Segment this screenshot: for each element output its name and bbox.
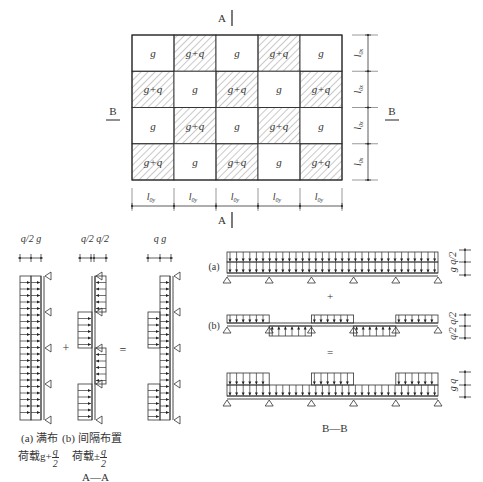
arrow-right-icon: [88, 409, 91, 412]
section-mark-a-top: A: [218, 12, 226, 24]
arrow-right-icon: [166, 398, 169, 401]
dimension-label-c: g q: [447, 379, 458, 392]
arrow-left-icon: [96, 366, 99, 369]
arrow-down-icon: [262, 393, 265, 396]
load-block: [31, 276, 41, 420]
arrow-down-icon: [255, 382, 258, 385]
arrow-down-icon: [361, 259, 364, 262]
arrow-down-icon: [387, 393, 390, 396]
arrow-up-icon: [362, 327, 365, 330]
arrow-down-icon: [420, 270, 423, 273]
dimension-tick-icon: [367, 179, 369, 181]
panel-load-label: g: [234, 120, 240, 132]
slab-panel: g+q: [132, 144, 174, 180]
slab-panel: g: [216, 35, 258, 71]
span-label-l0x: l0x: [352, 85, 364, 94]
load-block: [227, 262, 438, 273]
arrow-down-icon: [248, 382, 251, 385]
arrow-down-icon: [394, 259, 397, 262]
arrow-up-icon: [304, 327, 307, 330]
arrow-down-icon: [407, 259, 410, 262]
load-block: [227, 385, 438, 396]
arrow-right-icon: [27, 340, 30, 343]
arrow-down-icon: [334, 259, 337, 262]
arrow-right-icon: [37, 346, 40, 349]
arrow-left-icon: [96, 281, 99, 284]
diagram-bb-combined-load: g q: [223, 370, 471, 406]
label-a: (a): [208, 261, 219, 273]
panel-load-label: g: [192, 156, 198, 168]
arrow-down-icon: [354, 270, 357, 273]
arrow-up-icon: [382, 327, 385, 330]
arrow-down-icon: [341, 259, 344, 262]
arrow-right-icon: [88, 330, 91, 333]
arrow-down-icon: [320, 320, 323, 323]
panel-load-label: g+q: [312, 156, 331, 168]
arrow-right-icon: [156, 389, 159, 392]
arrow-right-icon: [37, 405, 40, 408]
arrow-down-icon: [347, 393, 350, 396]
arrow-up-icon: [284, 327, 287, 330]
load-block: [78, 384, 92, 420]
load-block: [148, 384, 160, 420]
arrow-down-icon: [295, 393, 298, 396]
scale-label-b: q/2 q/2: [81, 233, 109, 244]
arrow-down-icon: [341, 393, 344, 396]
scale-label-a: q/2 g: [21, 233, 41, 244]
dimension-tick-icon: [105, 257, 107, 259]
dimension-tick-icon: [299, 205, 301, 207]
support-icon: [307, 277, 315, 283]
panel-load-label: g+q: [270, 47, 289, 59]
dimension-tick-icon: [464, 261, 466, 263]
support-icon: [350, 277, 358, 283]
dimension-tick-icon: [19, 257, 21, 259]
slab-panel: g: [174, 71, 216, 107]
section-b-b-title: B—B: [322, 423, 348, 434]
arrow-down-icon: [321, 270, 324, 273]
arrow-down-icon: [413, 393, 416, 396]
dimension-tick-icon: [159, 257, 161, 259]
arrow-left-icon: [96, 379, 99, 382]
arrow-right-icon: [27, 392, 30, 395]
arrow-down-icon: [229, 382, 232, 385]
dimension-tick-icon: [170, 257, 172, 259]
arrow-right-icon: [88, 396, 91, 399]
support-icon: [45, 344, 51, 352]
arrow-right-icon: [166, 385, 169, 388]
arrow-right-icon: [166, 314, 169, 317]
arrow-down-icon: [374, 393, 377, 396]
arrow-right-icon: [27, 327, 30, 330]
fraction-q-over-2: q2: [52, 446, 59, 469]
support-icon: [45, 380, 51, 388]
arrow-down-icon: [308, 270, 311, 273]
arrow-down-icon: [288, 259, 291, 262]
arrow-down-icon: [281, 259, 284, 262]
panel-load-label: g+q: [312, 83, 331, 95]
span-label-l0x: l0x: [352, 49, 364, 58]
arrow-right-icon: [27, 301, 30, 304]
arrow-down-icon: [301, 393, 304, 396]
arrow-right-icon: [37, 294, 40, 297]
arrow-up-icon: [375, 327, 378, 330]
arrow-down-icon: [404, 320, 407, 323]
arrow-left-icon: [96, 353, 99, 356]
slab-panel: g: [300, 108, 342, 144]
support-icon: [174, 380, 180, 388]
arrow-right-icon: [27, 372, 30, 375]
span-label-l0y: l0y: [189, 191, 198, 203]
span-label-l0x: l0x: [352, 157, 364, 166]
dimension-label-b: q/2 q/2: [447, 312, 458, 340]
dimension-tick-icon: [464, 249, 466, 251]
arrow-right-icon: [166, 405, 169, 408]
support-icon: [265, 277, 273, 283]
arrow-down-icon: [326, 382, 329, 385]
arrow-down-icon: [397, 382, 400, 385]
arrow-right-icon: [27, 398, 30, 401]
arrow-down-icon: [313, 320, 316, 323]
support-icon: [174, 272, 180, 280]
support-icon: [174, 308, 180, 316]
arrow-down-icon: [367, 270, 370, 273]
span-label-l0y: l0y: [273, 191, 282, 203]
arrow-right-icon: [88, 415, 91, 418]
load-block: [95, 348, 106, 384]
